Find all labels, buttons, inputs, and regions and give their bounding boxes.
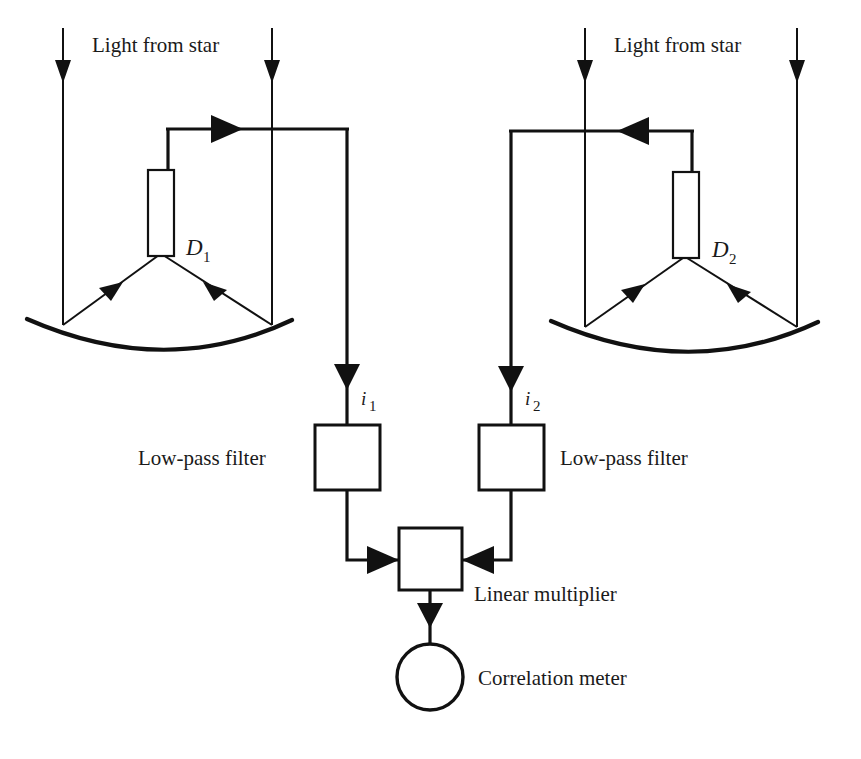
label-multiplier: Linear multiplier xyxy=(474,582,617,606)
arrowhead-multiplier-right-input xyxy=(462,546,494,574)
arrowhead-reflected-left-2 xyxy=(203,282,227,301)
label-current-right-subscript: 2 xyxy=(533,398,541,414)
label-filter-right: Low-pass filter xyxy=(560,446,688,470)
correlation-meter-circle xyxy=(397,644,463,710)
figure-canvas: Light from star Light from star D 1 D 2 … xyxy=(0,0,861,759)
filter-right-box xyxy=(479,425,544,490)
arrowhead-reflected-left-1 xyxy=(99,282,123,301)
filter-left-box xyxy=(315,425,380,490)
arrowhead-current-right xyxy=(498,366,524,392)
arrowhead-incoming-right-1 xyxy=(577,60,593,83)
detector-right-body xyxy=(673,172,699,258)
label-meter: Correlation meter xyxy=(478,666,627,690)
arrowhead-wire-right xyxy=(617,117,649,145)
arrowhead-current-left xyxy=(334,364,360,390)
label-current-left-letter: i xyxy=(361,388,366,409)
arrowhead-meter-input xyxy=(417,603,443,628)
label-current-right: i 2 xyxy=(525,388,541,414)
label-detector-right-letter: D xyxy=(711,237,729,262)
label-detector-left: D 1 xyxy=(185,235,211,265)
label-light-from-star-right: Light from star xyxy=(614,33,741,57)
intensity-interferometer-figure: Light from star Light from star D 1 D 2 … xyxy=(0,0,861,759)
left-telescope-group xyxy=(27,28,360,425)
multiplier-box xyxy=(399,528,462,590)
label-detector-left-subscript: 1 xyxy=(203,249,211,265)
arrowhead-incoming-right-2 xyxy=(789,60,805,83)
arrowhead-incoming-left-2 xyxy=(264,60,280,83)
arrowhead-multiplier-left-input xyxy=(367,546,399,574)
detector-left-body xyxy=(148,170,174,256)
label-current-left-subscript: 1 xyxy=(369,398,377,414)
wire-right-to-multiplier xyxy=(460,490,511,560)
label-filter-left: Low-pass filter xyxy=(138,446,266,470)
label-light-from-star-left: Light from star xyxy=(92,33,219,57)
arrowhead-reflected-right-2 xyxy=(727,284,751,303)
right-telescope-group xyxy=(498,28,818,425)
label-current-right-letter: i xyxy=(525,388,530,409)
label-detector-right-subscript: 2 xyxy=(729,251,737,267)
mirror-left xyxy=(27,319,292,350)
mirror-right xyxy=(551,321,818,352)
label-detector-left-letter: D xyxy=(185,235,203,260)
arrowhead-wire-left xyxy=(211,115,243,143)
label-current-left: i 1 xyxy=(361,388,377,414)
arrowhead-incoming-left-1 xyxy=(55,60,71,83)
label-detector-right: D 2 xyxy=(711,237,737,267)
